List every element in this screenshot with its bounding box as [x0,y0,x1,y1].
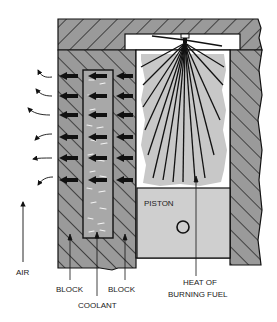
air-flow-arrow: AIR [16,202,30,277]
engine-cooling-diagram: PISTON AIR BLOCK BLOCK COOLANT HEAT OF B… [0,0,277,322]
block-right-label: BLOCK [108,285,136,294]
cylinder-head [58,19,262,50]
air-label: AIR [16,268,30,277]
heat-label-line1: HEAT OF [183,278,217,287]
piston: PISTON [137,188,230,258]
piston-label: PISTON [144,199,174,208]
air-curl-arrows [28,70,53,185]
right-block [230,50,262,265]
heat-label-line2: BURNING FUEL [168,290,228,299]
block-left-label: BLOCK [56,285,84,294]
coolant-label: COOLANT [78,301,117,310]
